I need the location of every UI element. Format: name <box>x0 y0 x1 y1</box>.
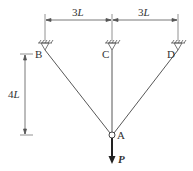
horizontal-dimension-line <box>46 19 177 22</box>
label-d: D <box>167 48 175 60</box>
truss-bars <box>45 50 178 133</box>
dimension-extension-lines <box>20 14 178 135</box>
label-b: B <box>35 48 42 60</box>
label-p: P <box>118 153 125 165</box>
bar-ad <box>114 50 178 133</box>
left-span-label: 3L <box>72 6 84 18</box>
joint-a <box>109 132 115 138</box>
right-span-label: 3L <box>138 6 150 18</box>
load-arrow-icon <box>109 138 116 164</box>
bar-ab <box>45 50 110 133</box>
truss-diagram: 3L 3L 4L B C D A P <box>0 0 193 171</box>
vertical-dimension-line <box>24 55 27 134</box>
label-a: A <box>117 129 125 141</box>
label-c: C <box>102 48 109 60</box>
height-label: 4L <box>8 88 20 100</box>
